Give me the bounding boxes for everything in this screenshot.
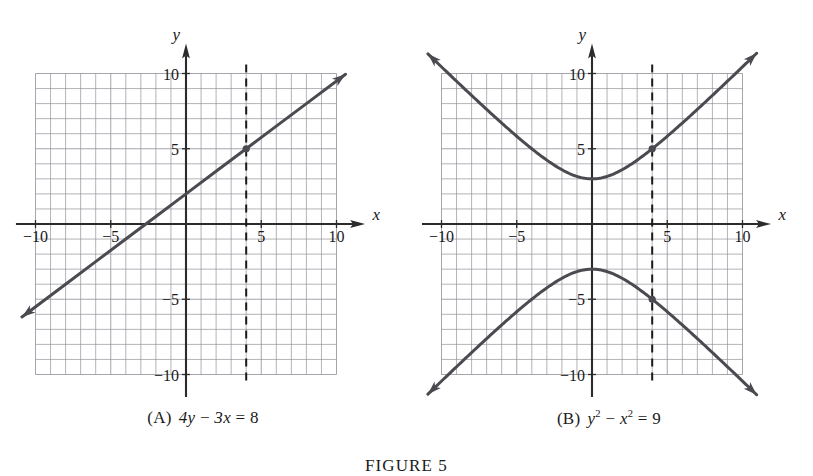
point-marker	[243, 145, 250, 152]
y-tick-label: 10	[569, 66, 585, 83]
y-tick-label: −5	[162, 291, 179, 308]
y-tick-label: 10	[163, 66, 179, 83]
x-tick-label: −10	[23, 228, 48, 245]
figure-container: xy−10−5510−10−5510 (A)4y − 3x = 8 xy−10−…	[0, 0, 813, 476]
y-tick-label: 5	[577, 141, 585, 158]
point-marker	[649, 145, 656, 152]
x-tick-label: −5	[508, 228, 525, 245]
caption-b: (B)y2 − x2 = 9	[406, 408, 812, 429]
y-axis-label: y	[170, 25, 180, 44]
x-tick-label: 10	[329, 228, 345, 245]
y-tick-label: 5	[171, 141, 179, 158]
caption-b-equation: y2 − x2 = 9	[587, 409, 661, 428]
y-tick-label: −10	[154, 367, 179, 384]
y-tick-label: −10	[560, 367, 585, 384]
x-tick-label: 10	[735, 228, 751, 245]
x-tick-label: −10	[429, 228, 454, 245]
panel-a: xy−10−5510−10−5510 (A)4y − 3x = 8	[0, 0, 406, 476]
axes: xy	[16, 25, 381, 397]
caption-a-equation: 4y − 3x = 8	[179, 408, 259, 427]
panel-b: xy−10−5510−10−5510 (B)y2 − x2 = 9	[406, 0, 812, 476]
axes: xy	[422, 25, 787, 397]
graph-b: xy−10−5510−10−5510	[406, 0, 812, 406]
caption-a-tag: (A)	[147, 408, 172, 427]
x-axis-label: x	[778, 205, 787, 224]
graph-a: xy−10−5510−10−5510	[0, 0, 406, 406]
x-tick-label: 5	[257, 228, 265, 245]
point-marker	[649, 296, 656, 303]
figure-label: FIGURE 5	[0, 456, 813, 476]
y-axis-label: y	[576, 25, 586, 44]
x-axis-label: x	[372, 205, 381, 224]
x-tick-label: −5	[102, 228, 119, 245]
caption-a: (A)4y − 3x = 8	[0, 408, 406, 428]
x-tick-label: 5	[663, 228, 671, 245]
curve-line	[22, 74, 346, 317]
caption-b-tag: (B)	[557, 409, 581, 428]
y-tick-label: −5	[568, 291, 585, 308]
